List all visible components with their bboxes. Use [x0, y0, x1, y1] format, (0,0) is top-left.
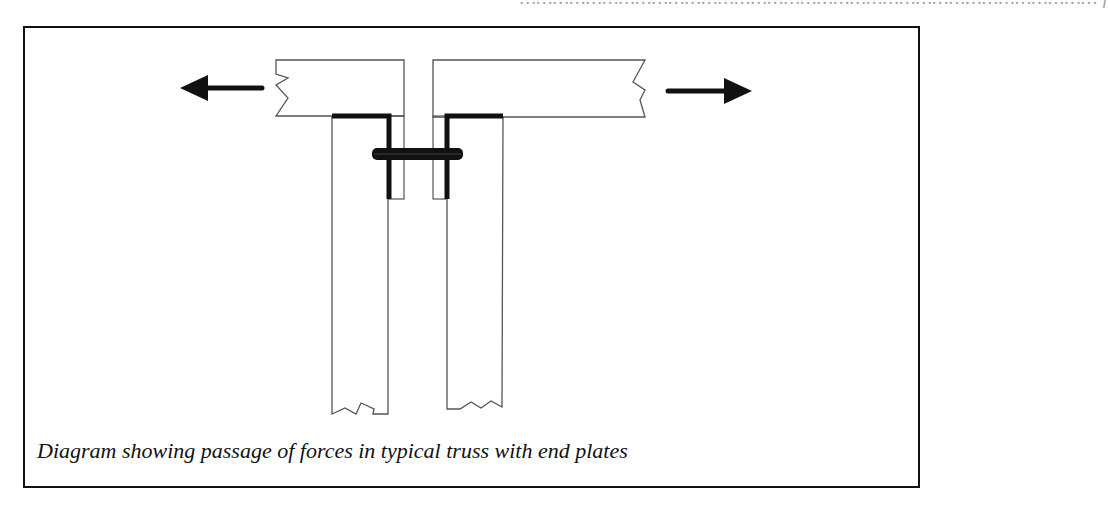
right-horizontal-member — [433, 60, 645, 117]
bolt — [372, 148, 463, 160]
right-force-arrow-icon — [668, 78, 752, 104]
left-vertical-member — [332, 116, 388, 414]
left-horizontal-member — [276, 60, 404, 116]
figure-caption: Diagram showing passage of forces in typ… — [37, 438, 628, 464]
left-force-arrow-icon — [180, 75, 262, 101]
